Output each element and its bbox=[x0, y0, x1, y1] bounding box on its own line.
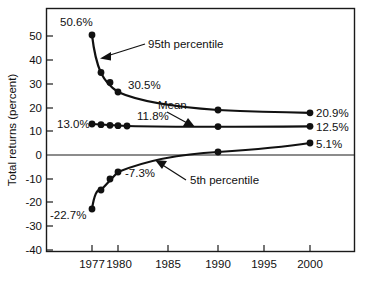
data-point bbox=[89, 121, 96, 128]
data-point bbox=[115, 89, 122, 96]
data-point bbox=[98, 121, 105, 128]
y-tick-label: 0 bbox=[36, 149, 42, 161]
annotation-p5-end: 5.1% bbox=[316, 138, 342, 150]
annotation-mean-end: 12.5% bbox=[316, 121, 349, 133]
data-point bbox=[115, 169, 122, 176]
annotation-mean-min: 11.8% bbox=[137, 110, 169, 122]
callout-label-5th: 5th percentile bbox=[190, 174, 259, 186]
arrowhead-icon bbox=[183, 118, 195, 127]
y-tick-label: -10 bbox=[25, 173, 42, 185]
data-point bbox=[107, 176, 114, 183]
data-point bbox=[215, 149, 222, 156]
data-point bbox=[215, 123, 222, 130]
y-tick-label: 10 bbox=[29, 125, 42, 137]
y-tick-label: 40 bbox=[29, 54, 42, 66]
annotation-p5-start: -22.7% bbox=[50, 209, 86, 221]
data-point bbox=[98, 187, 105, 194]
data-point bbox=[98, 69, 105, 76]
data-point bbox=[107, 122, 114, 129]
data-point bbox=[307, 109, 314, 116]
y-tick-label: -20 bbox=[25, 196, 42, 208]
y-tick-label: -40 bbox=[25, 244, 42, 256]
callout-label-95th: 95th percentile bbox=[148, 38, 223, 50]
x-tick-label: 1980 bbox=[106, 258, 132, 270]
x-tick-label: 1990 bbox=[205, 258, 231, 270]
y-axis-tick-labels: 50 40 30 20 10 0 -10 -20 -30 -40 bbox=[25, 30, 42, 256]
series-mean bbox=[89, 121, 314, 130]
data-point bbox=[124, 123, 131, 130]
annotation-p5-1980: -7.3% bbox=[125, 167, 155, 179]
callout-95th-percentile: 95th percentile bbox=[100, 38, 223, 61]
callout-5th-percentile: 5th percentile bbox=[155, 160, 259, 186]
annotation-mean-start: 13.0% bbox=[57, 118, 90, 130]
data-point bbox=[89, 32, 96, 39]
data-point bbox=[307, 123, 314, 130]
x-axis-ticks bbox=[92, 245, 310, 252]
data-point bbox=[215, 107, 222, 114]
data-point bbox=[89, 206, 96, 213]
chart-figure: 50 40 30 20 10 0 -10 -20 -30 -40 Total r… bbox=[0, 0, 370, 284]
x-tick-label: 1995 bbox=[251, 258, 277, 270]
x-tick-label: 1977 bbox=[79, 258, 105, 270]
annotation-p95-start: 50.6% bbox=[60, 16, 93, 28]
arrowhead-icon bbox=[100, 52, 111, 61]
annotation-p95-end: 20.9% bbox=[316, 107, 349, 119]
x-tick-label: 1985 bbox=[155, 258, 181, 270]
data-point bbox=[115, 122, 122, 129]
y-tick-label: 50 bbox=[29, 30, 42, 42]
y-axis-title: Total returns (percent) bbox=[6, 74, 18, 187]
annotation-p95-1980: 30.5% bbox=[128, 79, 161, 91]
chart-canvas: 50 40 30 20 10 0 -10 -20 -30 -40 Total r… bbox=[0, 0, 370, 284]
y-tick-label: -30 bbox=[25, 220, 42, 232]
callout-label-mean: Mean bbox=[158, 99, 187, 111]
data-point bbox=[307, 140, 314, 147]
x-axis-tick-labels: 1977 1980 1985 1990 1995 2000 bbox=[79, 258, 323, 270]
x-tick-label: 2000 bbox=[297, 258, 323, 270]
y-tick-label: 20 bbox=[29, 102, 42, 114]
y-tick-label: 30 bbox=[29, 78, 42, 90]
data-point bbox=[107, 79, 114, 86]
arrowhead-icon bbox=[155, 160, 167, 169]
